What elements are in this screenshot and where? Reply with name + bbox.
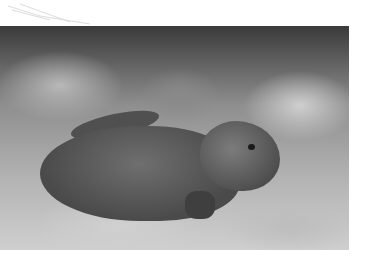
lizard-photo	[0, 26, 349, 250]
dragon-leg	[185, 191, 215, 219]
decorative-sketch	[0, 0, 110, 26]
dragon-eye	[248, 144, 255, 150]
dragon-head	[200, 121, 280, 191]
